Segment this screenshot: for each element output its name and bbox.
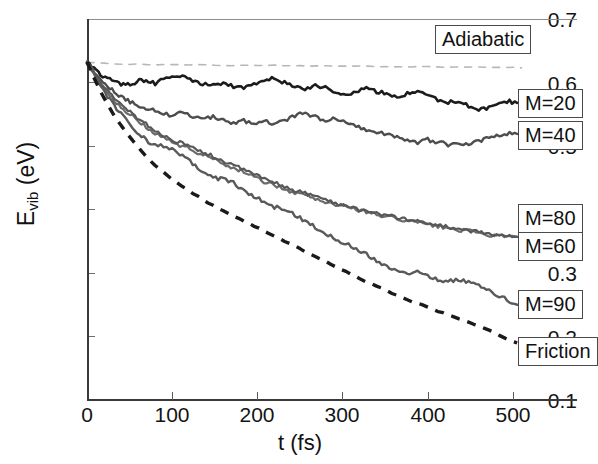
curve-m-40 bbox=[87, 63, 517, 147]
curve-friction bbox=[87, 62, 517, 343]
curve-m-20 bbox=[87, 63, 517, 111]
callout-friction: Friction bbox=[518, 337, 598, 366]
callout-m90: M=90 bbox=[518, 290, 583, 319]
callout-m20: M=20 bbox=[518, 89, 583, 118]
callout-m60: M=60 bbox=[518, 232, 583, 261]
callout-m80: M=80 bbox=[518, 204, 583, 233]
curve-adiabatic bbox=[87, 63, 521, 68]
callout-m40: M=40 bbox=[518, 121, 583, 150]
curve-m-90 bbox=[87, 62, 517, 305]
callout-adiabatic: Adiabatic bbox=[435, 25, 531, 54]
